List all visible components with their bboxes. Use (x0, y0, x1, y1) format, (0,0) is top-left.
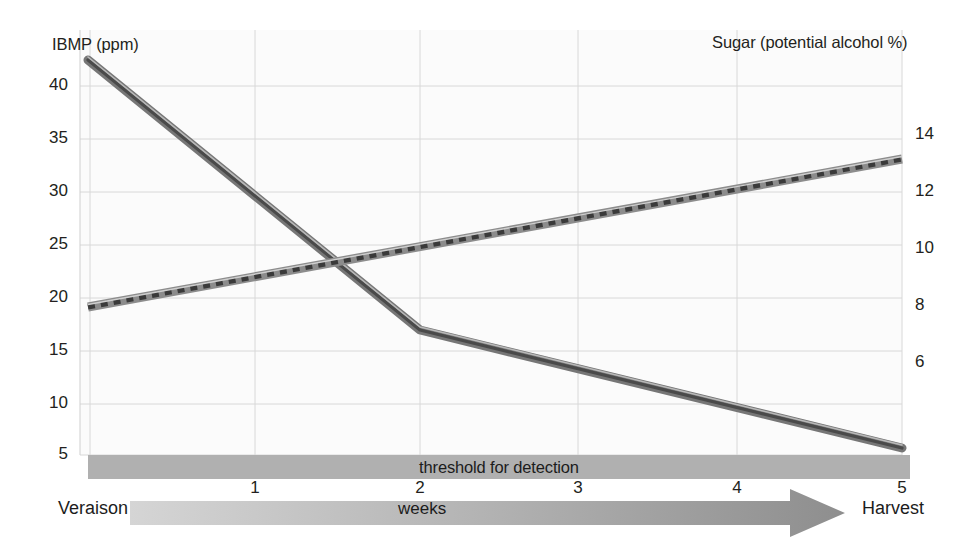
y-left-tick-25: 25 (26, 234, 68, 254)
series-sugar-line (88, 157, 902, 308)
x-tick-week-4: 4 (717, 478, 757, 498)
y-right-tick-6: 6 (915, 352, 957, 372)
x-axis-start-label-veraison: Veraison (58, 498, 128, 519)
vertical-gridlines (90, 30, 902, 455)
y-right-tick-10: 10 (915, 238, 957, 258)
x-axis-label-weeks: weeks (398, 499, 446, 519)
right-axis-title: Sugar (potential alcohol %) (712, 33, 907, 52)
y-right-tick-8: 8 (915, 295, 957, 315)
x-tick-week-5: 5 (882, 478, 922, 498)
series-ibmp-line (88, 57, 902, 448)
threshold-band-label: threshold for detection (419, 458, 579, 477)
x-tick-week-1: 1 (235, 478, 275, 498)
y-left-tick-20: 20 (26, 287, 68, 307)
y-left-tick-15: 15 (26, 340, 68, 360)
chart-root: IBMP (ppm) Sugar (potential alcohol %) 4… (0, 0, 967, 552)
threshold-band: threshold for detection (88, 455, 910, 479)
x-tick-week-3: 3 (558, 478, 598, 498)
y-right-tick-12: 12 (915, 181, 957, 201)
horizontal-gridlines (80, 86, 902, 455)
y-right-tick-14: 14 (915, 124, 957, 144)
y-left-tick-30: 30 (26, 181, 68, 201)
y-left-tick-10: 10 (26, 393, 68, 413)
left-axis-title: IBMP (ppm) (52, 35, 139, 54)
y-left-tick-35: 35 (26, 128, 68, 148)
y-left-tick-5: 5 (26, 444, 68, 464)
x-axis-end-label-harvest: Harvest (862, 498, 924, 519)
x-tick-week-2: 2 (400, 478, 440, 498)
y-left-tick-40: 40 (26, 75, 68, 95)
